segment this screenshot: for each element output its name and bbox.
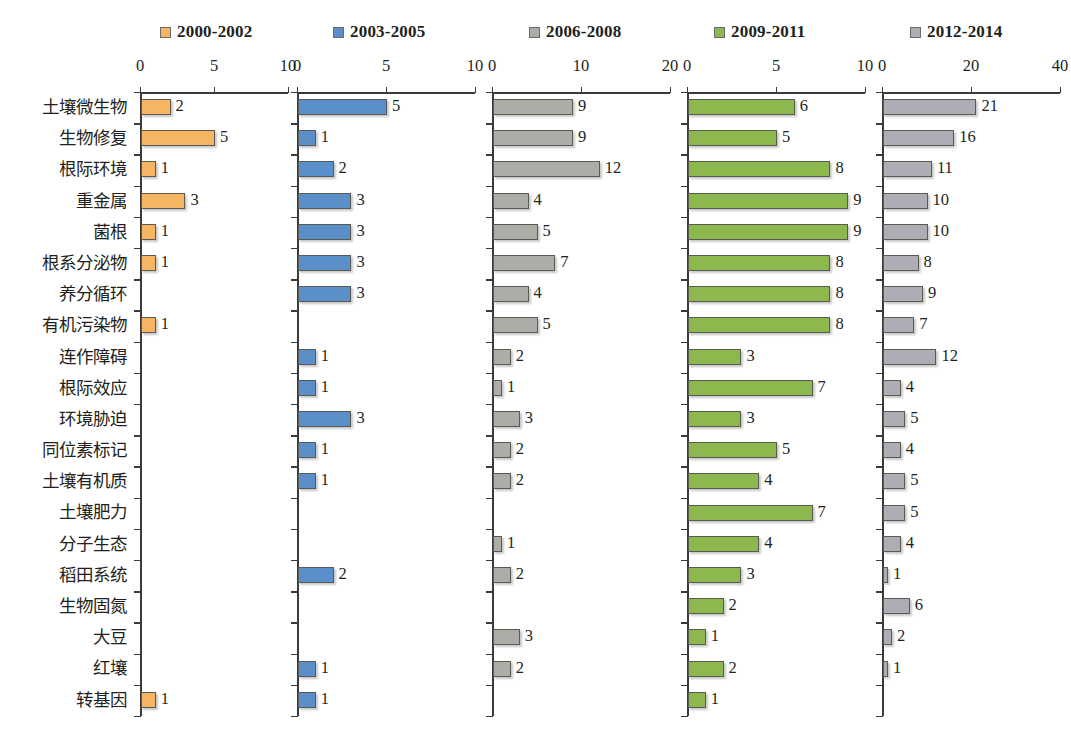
bar — [493, 317, 538, 333]
bar — [883, 505, 905, 521]
bar-value-label: 16 — [959, 127, 976, 147]
bar-row: 2 — [882, 622, 1060, 653]
bar — [688, 224, 848, 240]
bar-row: 4 — [492, 186, 670, 217]
bar — [688, 505, 813, 521]
category-label: 有机污染物 — [0, 310, 134, 341]
bar — [493, 536, 502, 552]
bar — [883, 567, 888, 583]
bar-row: 1 — [140, 217, 288, 248]
bar-value-label: 5 — [220, 127, 228, 147]
bar — [493, 380, 502, 396]
bar-value-label: 5 — [910, 502, 918, 522]
bar-row — [297, 591, 475, 622]
bar-value-label: 9 — [578, 127, 586, 147]
bar — [688, 442, 777, 458]
bar-row — [140, 591, 288, 622]
bar-row: 8 — [687, 310, 865, 341]
category-label: 根际效应 — [0, 373, 134, 404]
bar — [493, 224, 538, 240]
bar-row — [140, 498, 288, 529]
bar-row — [140, 529, 288, 560]
bar — [298, 193, 351, 209]
bar-value-label: 1 — [161, 689, 169, 709]
bar — [883, 473, 905, 489]
bar-value-label: 2 — [516, 346, 524, 366]
bar-row: 2 — [492, 466, 670, 497]
bar-value-label: 5 — [543, 314, 551, 334]
bar-value-label: 2 — [516, 439, 524, 459]
axis-tick-label: 5 — [772, 56, 780, 76]
bar-row: 2 — [140, 92, 288, 123]
bar-row: 1 — [297, 466, 475, 497]
bar-row: 1 — [687, 622, 865, 653]
bar-value-label: 1 — [321, 346, 329, 366]
bar — [493, 286, 529, 302]
legend-item-2009-2011: 2009-2011 — [714, 22, 806, 42]
axis-tick-label: 0 — [136, 56, 144, 76]
bar-row — [297, 622, 475, 653]
axis-tick-label: 5 — [210, 56, 218, 76]
bar-value-label: 21 — [981, 96, 998, 116]
bar-row: 16 — [882, 123, 1060, 154]
bar-value-label: 5 — [392, 96, 400, 116]
bar-value-label: 7 — [560, 252, 568, 272]
bar — [688, 536, 759, 552]
bar-row — [140, 654, 288, 685]
bar-value-label: 7 — [818, 377, 826, 397]
bar — [298, 661, 316, 677]
bar-row: 8 — [882, 248, 1060, 279]
legend-label: 2006-2008 — [546, 22, 621, 42]
category-label: 土壤有机质 — [0, 466, 134, 497]
legend-swatch-icon — [160, 27, 171, 38]
bar — [141, 130, 215, 146]
bar-value-label: 1 — [321, 377, 329, 397]
bar — [688, 380, 813, 396]
bar — [883, 629, 892, 645]
bar — [688, 411, 741, 427]
bar-row — [297, 498, 475, 529]
bar — [883, 536, 901, 552]
bar — [493, 161, 600, 177]
bar-value-label: 1 — [161, 252, 169, 272]
legend-swatch-icon — [529, 27, 540, 38]
panel-2003-2005: 0510512333311311211 — [297, 56, 475, 716]
bar-value-label: 3 — [356, 408, 364, 428]
category-axis-labels: 土壤微生物生物修复根际环境重金属菌根根系分泌物养分循环有机污染物连作障碍根际效应… — [0, 92, 134, 716]
bar — [883, 349, 936, 365]
bar-row: 2 — [492, 654, 670, 685]
bar-row: 12 — [492, 154, 670, 185]
bar — [883, 442, 901, 458]
bar-value-label: 5 — [910, 470, 918, 490]
bar-row: 2 — [297, 560, 475, 591]
bar — [298, 130, 316, 146]
category-label: 生物修复 — [0, 123, 134, 154]
bar-value-label: 1 — [161, 221, 169, 241]
bar-row: 2 — [492, 435, 670, 466]
bar — [493, 255, 555, 271]
bar — [883, 317, 914, 333]
bar-row — [492, 498, 670, 529]
bar — [688, 598, 724, 614]
bar-value-label: 9 — [853, 190, 861, 210]
bar — [493, 629, 520, 645]
bar-row: 3 — [492, 622, 670, 653]
bar — [141, 99, 171, 115]
bar-value-label: 1 — [711, 626, 719, 646]
bar — [688, 661, 724, 677]
axis-tick-label: 20 — [662, 56, 679, 76]
bar-value-label: 2 — [516, 658, 524, 678]
axis-tick-label: 20 — [963, 56, 980, 76]
bar-row: 3 — [687, 404, 865, 435]
bar-value-label: 5 — [543, 221, 551, 241]
bar-row — [140, 404, 288, 435]
bar-row: 2 — [687, 591, 865, 622]
legend-label: 2000-2002 — [177, 22, 252, 42]
bar — [688, 193, 848, 209]
bar-row: 5 — [687, 123, 865, 154]
bar-value-label: 8 — [835, 314, 843, 334]
bar-row — [882, 685, 1060, 716]
legend-swatch-icon — [714, 27, 725, 38]
bar-row: 3 — [297, 248, 475, 279]
bar-value-label: 8 — [835, 158, 843, 178]
